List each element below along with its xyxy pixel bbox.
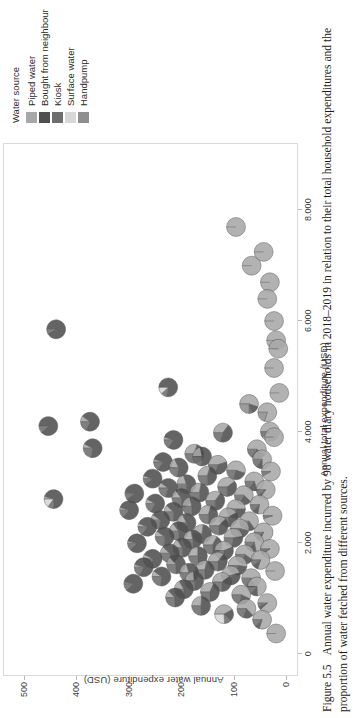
legend: Water source Piped waterBought from neig…	[10, 6, 90, 124]
pie-marker	[159, 378, 178, 397]
pie-slice	[155, 537, 164, 546]
x-tick-mark	[298, 653, 302, 654]
legend-item-label: Surface water	[65, 47, 76, 106]
pie-marker	[209, 516, 228, 535]
y-axis-title: Annual water expenditure (USD)	[4, 675, 304, 686]
x-tick-label: 0	[303, 651, 313, 656]
pie-marker	[83, 439, 102, 458]
pie-marker	[261, 462, 280, 481]
legend-item-label: Piped water	[26, 56, 37, 106]
pie-slice	[166, 598, 175, 607]
legend-swatch-icon	[51, 111, 64, 124]
x-tick-mark	[298, 320, 302, 321]
x-tick-label: 8.000	[303, 198, 313, 221]
pie-marker	[164, 430, 183, 449]
legend-title: Water source	[10, 6, 21, 123]
legend-item: Handpump	[77, 6, 90, 124]
legend-item-label: Handpump	[78, 60, 89, 106]
pie-slice	[192, 596, 202, 605]
pie-marker	[265, 359, 284, 378]
pie-marker	[44, 490, 63, 509]
pie-slice	[193, 457, 202, 466]
pie-marker	[120, 501, 139, 520]
pie-marker	[155, 527, 174, 546]
legend-item-label: Kiosk	[52, 83, 63, 106]
legend-swatch-icon	[77, 111, 90, 124]
pie-marker	[128, 534, 147, 553]
legend-item: Piped water	[25, 6, 38, 124]
pie-marker	[169, 458, 188, 477]
figure-page: 02.0004.0006.0008.0000100200300400500 An…	[0, 0, 362, 718]
pie-marker	[125, 484, 144, 503]
legend-swatch-icon	[38, 111, 51, 124]
x-tick-label: 4.000	[303, 420, 313, 443]
pie-marker	[260, 273, 279, 292]
pie-marker	[134, 558, 153, 577]
figure-caption-text: Annual water expenditure incurred by 98 …	[321, 28, 350, 712]
pie-marker	[258, 289, 277, 308]
pie-marker	[237, 599, 256, 618]
pie-slice	[215, 614, 225, 623]
pie-marker	[182, 497, 201, 516]
pie-scatter-svg	[4, 144, 297, 675]
pie-marker	[258, 594, 277, 613]
pie-marker	[138, 517, 157, 536]
pie-slice	[231, 573, 240, 585]
pie-marker	[265, 312, 284, 331]
pie-marker	[253, 610, 272, 629]
x-tick-label: 2.000	[303, 531, 313, 554]
scatter-plot-area	[4, 144, 297, 675]
pie-marker	[152, 567, 171, 586]
pie-marker	[124, 574, 143, 593]
x-tick-label: 6.000	[303, 309, 313, 332]
pie-marker	[265, 428, 284, 447]
legend-item: Surface water	[64, 6, 77, 124]
pie-marker	[270, 383, 289, 402]
pie-marker	[267, 624, 286, 643]
pie-marker	[215, 605, 234, 624]
pie-slice	[192, 606, 201, 615]
pie-marker	[166, 588, 185, 607]
legend-swatch-icon	[64, 111, 77, 124]
pie-marker	[146, 494, 165, 513]
pie-marker	[192, 596, 211, 615]
legend-item: Bought from neighbour	[38, 6, 51, 124]
figure-number: Figure 5.5	[321, 664, 334, 712]
pie-marker	[39, 417, 58, 436]
legend-swatch-icon	[25, 111, 38, 124]
x-tick-mark	[298, 209, 302, 210]
pie-slice	[83, 448, 92, 457]
pie-marker	[81, 412, 100, 431]
pie-marker	[227, 461, 246, 480]
rotated-caption-block: Figure 5.5Annual water expenditure incur…	[318, 0, 362, 718]
pie-marker	[263, 506, 282, 525]
pie-slice	[169, 468, 178, 477]
pie-slice	[199, 515, 208, 524]
pie-marker	[269, 339, 288, 358]
pie-slice	[240, 404, 249, 413]
pie-marker	[198, 466, 217, 485]
pie-marker	[266, 562, 285, 581]
pie-marker	[240, 395, 259, 414]
figure-caption: Figure 5.5Annual water expenditure incur…	[318, 0, 353, 718]
pie-marker	[214, 423, 233, 442]
pie-marker	[227, 218, 246, 237]
legend-item-label: Bought from neighbour	[39, 9, 50, 106]
legend-item: Kiosk	[51, 6, 64, 124]
pie-marker	[254, 242, 273, 261]
pie-slice	[152, 577, 161, 586]
x-tick-mark	[298, 542, 302, 543]
pie-marker	[258, 403, 277, 422]
rotated-figure-block: 02.0004.0006.0008.0000100200300400500 An…	[0, 0, 318, 718]
legend-items: Piped waterBought from neighbourKioskSur…	[25, 6, 90, 124]
x-tick-mark	[298, 431, 302, 432]
chart-panel	[3, 143, 298, 676]
pie-marker	[47, 320, 66, 339]
